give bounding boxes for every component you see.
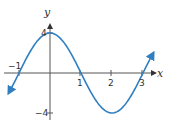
tick-label: 1 (77, 78, 83, 88)
tick-label: 4 (41, 28, 47, 38)
tick-label: 2 (108, 78, 114, 88)
x-axis-label: x (157, 67, 164, 80)
tick-label: −4 (35, 108, 49, 118)
tick-label: −1 (8, 61, 21, 71)
y-axis-label: y (43, 6, 51, 19)
tick-label: 3 (139, 78, 145, 88)
chart-svg: y x −1 1 2 3 4 −4 (0, 0, 172, 127)
chart: y x −1 1 2 3 4 −4 (0, 0, 172, 127)
